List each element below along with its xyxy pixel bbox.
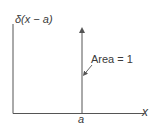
- impulse-position-label: a: [78, 114, 84, 125]
- y-axis-label: δ(x − a): [15, 14, 53, 25]
- annotation-leader-arrow: [85, 65, 93, 74]
- x-axis-label: x: [142, 106, 148, 118]
- area-annotation: Area = 1: [91, 54, 133, 65]
- delta-function-diagram: δ(x − a) x a Area = 1: [0, 0, 154, 131]
